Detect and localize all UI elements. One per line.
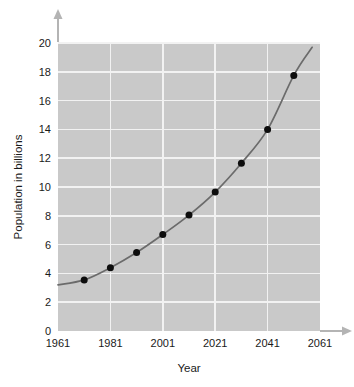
x-axis-title: Year bbox=[177, 362, 200, 374]
population-growth-chart: 02468101214161820 1961198120012021204120… bbox=[0, 0, 354, 387]
y-tick-label-18: 18 bbox=[39, 66, 51, 78]
data-point-2011 bbox=[186, 212, 193, 219]
y-tick-label-16: 16 bbox=[39, 95, 51, 107]
y-tick-label-14: 14 bbox=[39, 123, 51, 135]
data-point-2051 bbox=[290, 72, 297, 79]
y-axis-title: Population in billions bbox=[12, 134, 24, 239]
y-tick-label-0: 0 bbox=[45, 325, 51, 337]
y-tick-label-6: 6 bbox=[45, 239, 51, 251]
data-point-1981 bbox=[107, 264, 114, 271]
y-tick-label-4: 4 bbox=[45, 267, 51, 279]
y-tick-label-10: 10 bbox=[39, 181, 51, 193]
y-axis-arrow bbox=[54, 9, 63, 42]
x-tick-label-2061: 2061 bbox=[308, 337, 332, 349]
x-tick-label-2021: 2021 bbox=[203, 337, 227, 349]
data-point-2021 bbox=[212, 189, 219, 196]
y-tick-label-20: 20 bbox=[39, 37, 51, 49]
x-axis-arrow bbox=[320, 327, 352, 336]
chart-canvas: 02468101214161820 1961198120012021204120… bbox=[0, 0, 354, 387]
x-tick-label-1961: 1961 bbox=[46, 337, 70, 349]
y-tick-label-12: 12 bbox=[39, 152, 51, 164]
y-axis-tick-labels: 02468101214161820 bbox=[39, 37, 51, 337]
x-tick-label-2041: 2041 bbox=[255, 337, 279, 349]
data-point-1991 bbox=[133, 249, 140, 256]
data-point-2001 bbox=[159, 231, 166, 238]
y-tick-label-2: 2 bbox=[45, 296, 51, 308]
x-tick-label-2001: 2001 bbox=[151, 337, 175, 349]
y-tick-label-8: 8 bbox=[45, 210, 51, 222]
data-point-2041 bbox=[264, 126, 271, 133]
data-point-1971 bbox=[81, 276, 88, 283]
x-tick-label-1981: 1981 bbox=[98, 337, 122, 349]
x-axis-tick-labels: 196119812001202120412061 bbox=[46, 337, 332, 349]
data-point-2031 bbox=[238, 160, 245, 167]
